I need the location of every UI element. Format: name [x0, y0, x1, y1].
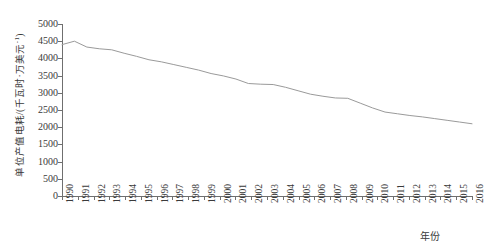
y-axis-tick-mark: [58, 127, 62, 128]
x-axis-tick-mark: [472, 196, 473, 200]
y-axis-tick-label: 2500: [38, 105, 58, 115]
x-axis-tick-mark: [362, 196, 363, 200]
x-axis-tick-label: 2004: [287, 184, 297, 203]
x-axis-tick-label: 2011: [397, 184, 407, 203]
x-axis-tick-label: 1994: [129, 184, 139, 203]
y-axis-tick-mark: [58, 110, 62, 111]
x-axis-tick-mark: [425, 196, 426, 200]
x-axis-tick-label: 2012: [413, 184, 423, 203]
x-axis-tick-mark: [141, 196, 142, 200]
x-axis-tick-mark: [251, 196, 252, 200]
series-svg: [62, 24, 472, 196]
x-axis-tick-mark: [409, 196, 410, 200]
x-axis-tick-mark: [172, 196, 173, 200]
y-axis-tick-label: 2000: [38, 122, 58, 132]
chart-figure: 单位产值电耗/(千瓦时·万美元-1) 050010001500200025003…: [0, 0, 494, 252]
x-axis-tick-mark: [299, 196, 300, 200]
y-axis-title-exponent: -1: [13, 37, 21, 43]
y-axis-tick-label: 4500: [38, 36, 58, 46]
x-axis-tick-mark: [377, 196, 378, 200]
y-axis-tick-mark: [58, 144, 62, 145]
y-axis-tick-label: 500: [43, 174, 58, 184]
y-axis-tick-label: 1500: [38, 139, 58, 149]
y-axis-tick-mark: [58, 93, 62, 94]
y-axis-tick-mark: [58, 24, 62, 25]
x-axis-tick-label: 2003: [271, 184, 281, 203]
x-axis-tick-mark: [78, 196, 79, 200]
x-axis-tick-mark: [188, 196, 189, 200]
x-axis-tick-label: 1998: [192, 184, 202, 203]
x-axis-tick-mark: [456, 196, 457, 200]
y-axis-tick-mark: [58, 162, 62, 163]
x-axis-tick-label: 1993: [113, 184, 123, 203]
x-axis-tick-mark: [125, 196, 126, 200]
y-axis-tick-label: 5000: [38, 19, 58, 29]
x-axis-tick-label: 2002: [255, 184, 265, 203]
x-axis-tick-label: 2014: [444, 184, 454, 203]
x-axis-tick-label: 1996: [161, 184, 171, 203]
y-axis-tick-label: 4000: [38, 53, 58, 63]
y-axis-tick-mark: [58, 41, 62, 42]
x-axis-tick-label: 1997: [176, 184, 186, 203]
x-axis-tick-label: 2009: [366, 184, 376, 203]
x-axis-tick-label: 2010: [381, 184, 391, 203]
y-axis-tick-label: 1000: [38, 157, 58, 167]
y-axis-tick-mark: [58, 76, 62, 77]
x-axis-tick-label: 1991: [82, 184, 92, 203]
y-axis-tick-label: 3500: [38, 71, 58, 81]
x-axis-tick-mark: [283, 196, 284, 200]
x-axis-tick-label: 1992: [98, 184, 108, 203]
x-axis-tick-mark: [235, 196, 236, 200]
x-axis-tick-label: 2006: [318, 184, 328, 203]
x-axis-tick-label: 2000: [224, 184, 234, 203]
x-axis-tick-mark: [94, 196, 95, 200]
x-axis-tick-label: 2013: [429, 184, 439, 203]
y-axis-tick-mark: [58, 58, 62, 59]
x-axis-tick-label: 1999: [208, 184, 218, 203]
x-axis-tick-label: 2005: [303, 184, 313, 203]
x-axis-tick-mark: [330, 196, 331, 200]
x-axis-tick-label: 2015: [460, 184, 470, 203]
x-axis-tick-mark: [440, 196, 441, 200]
x-axis-tick-mark: [267, 196, 268, 200]
y-axis-title: 单位产值电耗/(千瓦时·万美元-1): [12, 15, 26, 195]
y-axis-tick-mark: [58, 179, 62, 180]
x-axis-tick-mark: [109, 196, 110, 200]
x-axis-tick-label: 2008: [350, 184, 360, 203]
x-axis-tick-label: 2007: [334, 184, 344, 203]
x-axis-tick-mark: [346, 196, 347, 200]
x-axis-tick-label: 1995: [145, 184, 155, 203]
x-axis-title: 年份: [420, 228, 440, 243]
x-axis-tick-mark: [393, 196, 394, 200]
x-axis-tick-label: 2001: [239, 184, 249, 203]
x-axis-tick-mark: [204, 196, 205, 200]
plot-area: 0500100015002000250030003500400045005000…: [62, 24, 472, 196]
x-axis-tick-label: 2016: [476, 184, 486, 203]
x-axis-tick-mark: [314, 196, 315, 200]
data-line-series-0: [62, 41, 472, 124]
x-axis-tick-mark: [157, 196, 158, 200]
y-axis-tick-label: 3000: [38, 88, 58, 98]
y-axis-title-text: 单位产值电耗/(千瓦时·万美元: [15, 43, 25, 176]
x-axis-tick-mark: [62, 196, 63, 200]
x-axis-tick-mark: [220, 196, 221, 200]
y-axis-title-close: ): [15, 33, 25, 36]
x-axis-tick-label: 1990: [66, 184, 76, 203]
